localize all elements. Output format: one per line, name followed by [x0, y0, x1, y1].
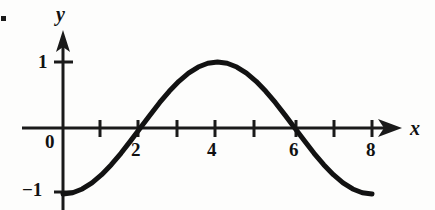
- y-axis-label: y: [56, 4, 65, 24]
- origin-label: 0: [45, 132, 55, 151]
- figure-canvas: y x 1 −1 0 2 4 6 8: [0, 0, 435, 210]
- x-tick-label-4: 4: [207, 140, 217, 159]
- coordinate-plot: [0, 0, 435, 210]
- x-tick-label-8: 8: [366, 140, 376, 159]
- y-tick-label-neg1: −1: [22, 180, 42, 199]
- x-tick-label-2: 2: [131, 140, 141, 159]
- x-axis-label: x: [410, 118, 420, 138]
- x-tick-label-6: 6: [289, 140, 299, 159]
- y-tick-label-1: 1: [38, 52, 48, 71]
